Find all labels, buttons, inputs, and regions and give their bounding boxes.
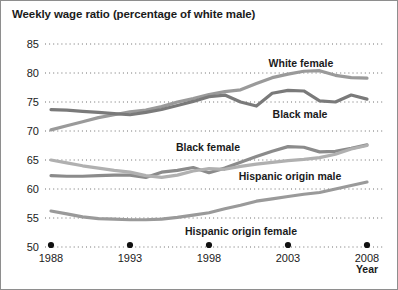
- y-axis-tick-labels: 5055606570758085: [27, 38, 39, 253]
- y-axis-tick-label: 70: [27, 125, 39, 137]
- x-axis-tick-labels: 19881993199820032008: [39, 252, 379, 264]
- x-axis-tick-dot: [364, 242, 370, 248]
- series-label-hispanic-origin-male: Hispanic origin male: [239, 170, 342, 182]
- x-axis-tick-label: 1993: [118, 252, 142, 264]
- x-axis-tick-marks: [48, 242, 370, 248]
- y-axis-tick-label: 75: [27, 96, 39, 108]
- y-axis-tick-label: 65: [27, 154, 39, 166]
- x-axis-tick-label: 1998: [197, 252, 221, 264]
- x-axis-tick-label: 1988: [39, 252, 63, 264]
- y-axis-tick-label: 55: [27, 212, 39, 224]
- series-label-black-female: Black female: [176, 141, 240, 153]
- series-label-hispanic-origin-female: Hispanic origin female: [185, 225, 297, 237]
- y-axis-tick-label: 85: [27, 38, 39, 50]
- data-line-hispanic-origin-female: [51, 182, 367, 220]
- y-axis-tick-label: 60: [27, 183, 39, 195]
- x-axis-tick-dot: [48, 242, 54, 248]
- line-chart-plot: 5055606570758085 19881993199820032008 Wh…: [1, 1, 398, 290]
- x-axis-tick-label: 2003: [276, 252, 300, 264]
- chart-figure: Weekly wage ratio (percentage of white m…: [0, 0, 398, 290]
- series-label-white-female: White female: [269, 57, 334, 69]
- y-axis-tick-label: 80: [27, 67, 39, 79]
- x-axis-tick-dot: [206, 242, 212, 248]
- series-label-black-male: Black male: [273, 108, 328, 120]
- x-axis-title: Year: [356, 263, 378, 275]
- y-axis-tick-label: 50: [27, 241, 39, 253]
- x-axis-tick-dot: [285, 242, 291, 248]
- x-axis-tick-dot: [127, 242, 133, 248]
